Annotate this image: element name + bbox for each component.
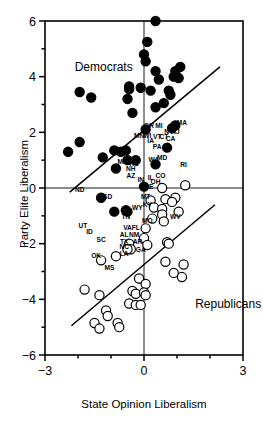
state-label: GA (136, 246, 146, 253)
x-tick-label: 3 (240, 364, 247, 378)
state-label: WY (132, 204, 143, 211)
state-label: OK (91, 252, 101, 259)
data-point-republicans (159, 217, 168, 226)
state-label: MA (177, 119, 187, 126)
data-point-republicans (115, 323, 124, 332)
data-point-republicans (164, 239, 173, 248)
state-label: AL (120, 231, 129, 238)
x-axis-label: State Opinion Liberalism (45, 398, 243, 410)
state-label: MT (141, 193, 151, 200)
state-label: MI (155, 122, 162, 129)
y-tick-label: 0 (29, 182, 36, 196)
state-label: SD (103, 193, 112, 200)
data-point-democrats (146, 86, 155, 95)
data-point-democrats (141, 57, 150, 66)
state-label: CA (166, 135, 176, 142)
data-point-democrats (163, 143, 172, 152)
annotation-democrats: Democrats (75, 60, 133, 74)
data-point-democrats (98, 153, 107, 162)
y-tick-label: −6 (22, 349, 36, 363)
state-label: CO (156, 172, 166, 179)
data-point-republicans (131, 289, 140, 298)
data-point-republicans (141, 291, 150, 300)
y-tick-label: −4 (22, 293, 36, 307)
state-label: LA (120, 250, 129, 257)
data-point-democrats (151, 16, 160, 25)
data-point-republicans (95, 324, 104, 333)
data-point-republicans (179, 260, 188, 269)
state-label: WV (170, 213, 181, 220)
x-tick-label: −3 (38, 364, 52, 378)
data-point-democrats (128, 108, 137, 117)
data-point-republicans (161, 257, 170, 266)
x-tick-label: 0 (141, 364, 148, 378)
state-label: NC (119, 243, 129, 250)
data-point-democrats (87, 93, 96, 102)
state-label: KS (130, 160, 140, 167)
state-label: IL (148, 174, 154, 181)
data-point-republicans (136, 300, 145, 309)
data-point-democrats (166, 90, 175, 99)
data-point-democrats (64, 147, 73, 156)
state-label: ME (118, 158, 128, 165)
state-label: AZ (126, 172, 135, 179)
data-point-democrats (75, 137, 84, 146)
state-label: KY (143, 201, 153, 208)
plot-canvas: −6−4−20246−303NDSDUTIDSCOKMSTNVAFLALNMTX… (0, 0, 263, 421)
state-label: WA (149, 156, 160, 163)
data-point-democrats (143, 37, 152, 46)
state-label: IN (137, 176, 144, 183)
state-label: FL (132, 224, 140, 231)
data-point-democrats (110, 146, 119, 155)
state-label: NJ (171, 128, 180, 135)
data-point-republicans (95, 291, 104, 300)
state-label: AR (133, 238, 143, 245)
state-label: TN (121, 213, 130, 220)
figure-scatter-plot: −6−4−20246−303NDSDUTIDSCOKMSTNVAFLALNMTX… (0, 0, 263, 421)
data-point-republicans (167, 197, 176, 206)
state-label: ID (86, 228, 93, 235)
data-point-democrats (125, 85, 134, 94)
data-point-democrats (123, 94, 132, 103)
data-point-republicans (141, 224, 150, 233)
data-point-republicans (181, 181, 190, 190)
state-label: RI (180, 161, 187, 168)
data-point-republicans (177, 272, 186, 281)
y-axis-label: Party Elite Liberalism (18, 124, 30, 264)
state-label: NM (129, 231, 140, 238)
data-point-democrats (174, 73, 183, 82)
data-point-republicans (103, 311, 112, 320)
y-tick-label: 6 (29, 15, 36, 29)
state-label: SC (97, 236, 106, 243)
state-label: OR (144, 122, 154, 129)
data-point-republicans (141, 279, 150, 288)
data-point-democrats (75, 87, 84, 96)
data-point-republicans (80, 285, 89, 294)
state-label: WI (143, 132, 151, 139)
state-label: ND (75, 186, 85, 193)
data-point-democrats (136, 83, 145, 92)
state-label: MS (104, 264, 114, 271)
data-point-democrats (110, 207, 119, 216)
annotation-republicans: Republicans (195, 297, 261, 311)
y-tick-label: 4 (29, 70, 36, 84)
state-label: PA (153, 143, 162, 150)
data-point-democrats (151, 103, 160, 112)
state-label: MO (142, 217, 153, 224)
data-point-democrats (154, 75, 163, 84)
y-tick-label: 2 (29, 126, 36, 140)
